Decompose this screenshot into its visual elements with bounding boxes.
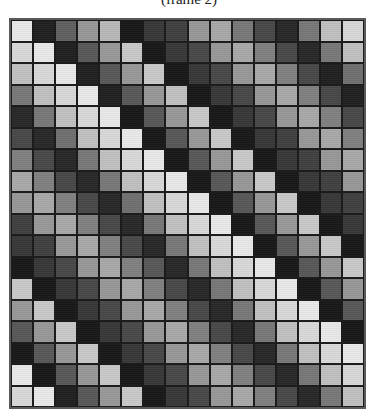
heatmap-cell [165,300,187,322]
heatmap-cell [121,106,143,128]
heatmap-cell [143,386,165,408]
heatmap-cell [276,63,298,85]
heatmap-cell [232,364,254,386]
heatmap-cell [342,343,364,365]
heatmap-cell [99,192,121,214]
heatmap-cell [99,257,121,279]
heatmap-cell [77,364,99,386]
heatmap-cell [33,171,55,193]
heatmap-cell [165,386,187,408]
heatmap-cell [232,128,254,150]
heatmap-cell [165,42,187,64]
heatmap-cell [165,192,187,214]
heatmap-cell [121,63,143,85]
heatmap-cell [232,257,254,279]
heatmap-cell [254,278,276,300]
heatmap-cell [254,257,276,279]
heatmap-cell [77,171,99,193]
heatmap-cell [298,257,320,279]
heatmap-cell [143,20,165,42]
heatmap-cell [33,321,55,343]
heatmap-cell [320,63,342,85]
heatmap-cell [165,364,187,386]
heatmap-cell [232,20,254,42]
heatmap-cell [276,235,298,257]
heatmap-cell [55,20,77,42]
heatmap-cell [143,85,165,107]
heatmap-cell [99,214,121,236]
heatmap-cell [188,85,210,107]
heatmap-cell [33,300,55,322]
heatmap-cell [254,192,276,214]
heatmap-cell [188,235,210,257]
heatmap-cell [276,20,298,42]
heatmap-cell [121,386,143,408]
heatmap-cell [77,386,99,408]
heatmap-cell [210,20,232,42]
heatmap-cell [77,106,99,128]
heatmap-cell [342,85,364,107]
heatmap-cell [99,149,121,171]
heatmap-cell [165,278,187,300]
heatmap-cell [342,278,364,300]
heatmap-cell [99,343,121,365]
heatmap-cell [121,321,143,343]
heatmap-cell [188,386,210,408]
heatmap-cell [11,42,33,64]
heatmap-cell [210,300,232,322]
heatmap-cell [121,278,143,300]
heatmap-cell [320,106,342,128]
heatmap-cell [121,42,143,64]
heatmap-cell [33,214,55,236]
heatmap-cell [276,171,298,193]
heatmap-cell [298,20,320,42]
heatmap-cell [210,192,232,214]
heatmap-cell [143,300,165,322]
heatmap-cell [33,192,55,214]
heatmap-cell [210,42,232,64]
heatmap-cell [77,20,99,42]
heatmap-cell [33,278,55,300]
heatmap-cell [210,257,232,279]
heatmap-cell [254,343,276,365]
heatmap-cell [77,278,99,300]
heatmap-cell [33,42,55,64]
heatmap-cell [188,171,210,193]
heatmap-cell [320,235,342,257]
heatmap-cell [232,321,254,343]
heatmap-cell [33,63,55,85]
heatmap-cell [143,278,165,300]
heatmap-cell [11,278,33,300]
heatmap-cell [320,149,342,171]
heatmap-cell [232,63,254,85]
heatmap-cell [254,321,276,343]
heatmap-cell [165,171,187,193]
heatmap-cell [11,128,33,150]
heatmap-cell [55,235,77,257]
heatmap-cell [143,171,165,193]
heatmap-cell [210,278,232,300]
heatmap-cell [77,63,99,85]
heatmap-cell [165,85,187,107]
heatmap-cell [33,343,55,365]
heatmap-cell [210,321,232,343]
heatmap-cell [99,63,121,85]
heatmap-cell [121,192,143,214]
heatmap-cell [55,42,77,64]
heatmap-cell [77,343,99,365]
heatmap-cell [165,106,187,128]
heatmap-cell [320,364,342,386]
heatmap-cell [33,364,55,386]
heatmap-cell [298,364,320,386]
heatmap-cell [254,20,276,42]
heatmap-cell [99,128,121,150]
heatmap-cell [342,20,364,42]
heatmap-cell [188,364,210,386]
heatmap-cell [121,20,143,42]
heatmap-cell [188,214,210,236]
heatmap-cell [121,85,143,107]
heatmap-cell [77,42,99,64]
heatmap-cell [143,214,165,236]
heatmap-cell [11,85,33,107]
heatmap-cell [342,192,364,214]
